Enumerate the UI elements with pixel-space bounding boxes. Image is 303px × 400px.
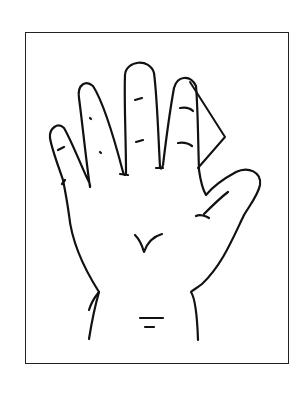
hand-illustration	[0, 0, 303, 400]
triangle-marker	[190, 82, 225, 168]
hand-outline	[50, 63, 260, 340]
